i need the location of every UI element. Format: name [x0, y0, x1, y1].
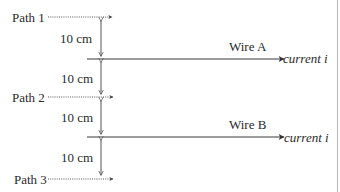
path-3-label: Path 3: [14, 173, 47, 186]
wire-a-label: Wire A: [229, 40, 266, 53]
wire-paths-diagram: [0, 0, 340, 192]
distance-label-1: 10 cm: [60, 32, 92, 45]
path-2-label: Path 2: [12, 91, 45, 104]
distance-label-2: 10 cm: [61, 72, 93, 85]
distance-label-4: 10 cm: [61, 151, 93, 164]
right-border-divider: [337, 0, 338, 192]
wire-b-current-label: current i: [284, 131, 329, 144]
distance-label-3: 10 cm: [61, 111, 93, 124]
wire-b-label: Wire B: [229, 118, 266, 131]
path-1-label: Path 1: [12, 11, 45, 24]
wire-a-current-label: current i: [283, 52, 328, 65]
